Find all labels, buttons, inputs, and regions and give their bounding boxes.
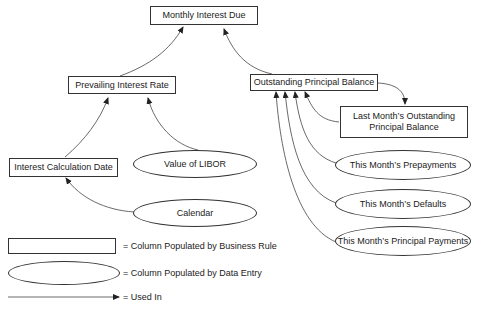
node-monthly-interest-due: Monthly Interest Due: [150, 6, 258, 25]
legend-ellipse-label: = Column Populated by Data Entry: [123, 268, 262, 278]
edge-outstanding-to-lastmonth: [378, 83, 405, 104]
node-last-months-outstanding-principal-balance: Last Month’s Outstanding Principal Balan…: [340, 106, 468, 138]
legend-arrow-label: = Used In: [123, 292, 162, 302]
legend-rectangle-label: = Column Populated by Business Rule: [123, 241, 277, 251]
edge-calcdate-to-prevailing: [65, 98, 108, 157]
node-this-months-prepayments: This Month’s Prepayments: [335, 150, 471, 180]
edge-prepayments-to-outstanding: [295, 92, 336, 163]
legend-rectangle-swatch: [8, 238, 116, 254]
edge-calendar-to-calcdate: [66, 178, 134, 212]
node-value-of-libor: Value of LIBOR: [133, 150, 257, 178]
node-interest-calculation-date: Interest Calculation Date: [9, 158, 118, 177]
node-calendar: Calendar: [133, 199, 257, 227]
node-this-months-principal-payments: This Month’s Principal Payments: [335, 226, 471, 256]
edge-libor-to-prevailing: [148, 98, 198, 150]
edge-principal-to-outstanding: [276, 92, 336, 242]
legend-ellipse-swatch: [8, 261, 120, 285]
edge-outstanding-to-monthly: [224, 29, 272, 74]
edge-defaults-to-outstanding: [285, 92, 336, 203]
edge-lastmonth-to-outstanding: [305, 92, 339, 122]
edge-prevailing-to-monthly: [120, 27, 183, 76]
node-this-months-defaults: This Month’s Defaults: [335, 189, 471, 219]
node-prevailing-interest-rate: Prevailing Interest Rate: [68, 76, 176, 94]
node-outstanding-principal-balance: Outstanding Principal Balance: [250, 74, 378, 91]
